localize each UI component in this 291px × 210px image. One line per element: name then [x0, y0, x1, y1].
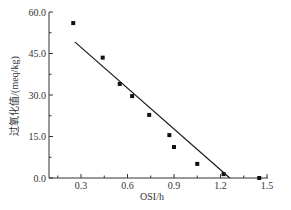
scatter-chart: 0.015.030.045.060.0 0.30.60.91.21.5 OSI/… — [0, 0, 291, 210]
x-tick-label: 1.2 — [214, 180, 227, 191]
x-axis: 0.30.60.91.21.5 — [49, 174, 273, 191]
data-point-square — [172, 145, 176, 149]
data-series — [71, 21, 261, 180]
y-tick-label: 0.0 — [34, 173, 47, 184]
data-point-square — [257, 176, 261, 180]
y-axis: 0.015.030.045.060.0 — [29, 7, 54, 184]
x-axis-title: OSI/h — [140, 191, 164, 202]
x-tick-label: 0.9 — [168, 180, 181, 191]
data-point-square — [101, 56, 105, 60]
y-tick-label: 45.0 — [29, 48, 47, 59]
y-tick-label: 15.0 — [29, 131, 47, 142]
data-point-square — [130, 94, 134, 98]
fit-line — [75, 42, 230, 178]
data-point-square — [147, 113, 151, 117]
x-tick-label: 0.6 — [121, 180, 134, 191]
x-tick-label: 0.3 — [75, 180, 88, 191]
data-point-square — [71, 21, 75, 25]
y-tick-label: 60.0 — [29, 7, 47, 18]
data-point-square — [167, 133, 171, 137]
x-tick-label: 1.5 — [261, 180, 274, 191]
data-point-square — [195, 162, 199, 166]
y-axis-title: 过氧化值/(meq/kg) — [8, 56, 21, 135]
y-tick-label: 30.0 — [29, 90, 47, 101]
